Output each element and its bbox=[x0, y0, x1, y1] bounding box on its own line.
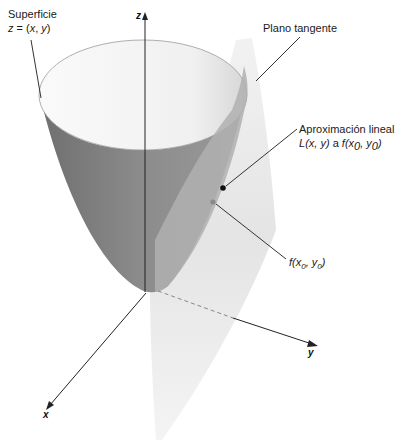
y-axis-label: y bbox=[307, 347, 314, 358]
surface-point bbox=[210, 199, 215, 204]
tangent-plane-diagram: z x y Superficie z = (x, y) Plano tangen… bbox=[0, 0, 411, 444]
z-axis-arrow-icon bbox=[142, 12, 148, 20]
x-axis bbox=[50, 293, 146, 405]
linear-approx-label-formula: L(x, y) a f(x0, y0) bbox=[299, 137, 382, 152]
surface-leader-line bbox=[31, 40, 41, 98]
la-a: a bbox=[330, 137, 342, 149]
la-args: (x, y) bbox=[305, 137, 330, 149]
surface-eq-eq: = ( bbox=[14, 22, 31, 34]
surface-label-equation: z = (x, y) bbox=[7, 22, 51, 34]
surface-eq-close: ) bbox=[47, 22, 51, 34]
tangent-plane-leader-line bbox=[256, 37, 300, 81]
linear-approx-label-title: Aproximación lineal bbox=[299, 123, 394, 135]
tangent-plane-label: Plano tangente bbox=[263, 22, 337, 34]
z-axis-label: z bbox=[135, 10, 141, 21]
y-axis bbox=[233, 318, 312, 344]
point-label: f(x0, y0) bbox=[289, 256, 326, 271]
y-axis-arrow-icon bbox=[307, 340, 318, 347]
x-axis-label: x bbox=[42, 409, 49, 420]
linear-approximation-point bbox=[220, 185, 226, 191]
surface-label-title: Superficie bbox=[8, 8, 57, 20]
